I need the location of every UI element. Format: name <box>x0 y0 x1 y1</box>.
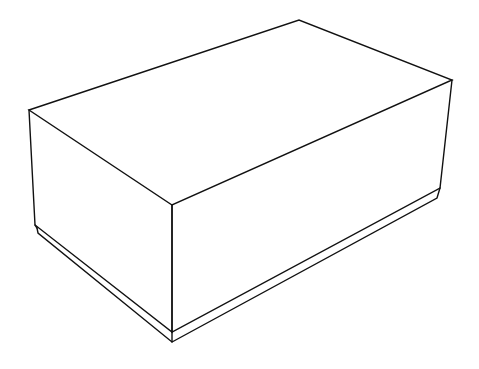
box-top-face <box>29 20 452 205</box>
box-drawing <box>0 0 479 369</box>
box-left-face <box>29 110 172 332</box>
base-plate <box>35 188 440 342</box>
box-right-face <box>172 80 452 332</box>
